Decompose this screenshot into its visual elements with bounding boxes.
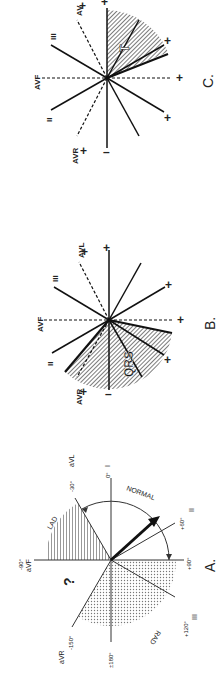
label-iii: III [51,275,60,282]
label-avl: AV [75,5,84,16]
indeterminate-label: ? [61,577,77,586]
label-plus90: +90° [186,557,192,570]
axis-plus60 [111,523,175,560]
lead-iii-line [51,45,107,78]
plus-mark: + [176,71,183,85]
plus-mark: + [177,313,184,327]
rad-region [78,560,176,626]
label-minus150: -150° [68,635,74,650]
label-plus120: +120° [183,620,189,637]
caption-c: C. [200,74,216,88]
t-label: T [118,44,132,52]
label-avl: AVL [77,242,86,258]
label-iii: III [49,33,58,40]
plus-mark: + [164,34,171,48]
label-minus30: -30° [69,480,75,492]
label-ii: II [45,118,54,122]
panel-b: + + + + + + – AVL III AVF II AVR QRS B. [36,241,218,405]
lead-avf: aVF [25,559,32,572]
label-avf: AVF [36,316,45,332]
lead-iii: III [191,614,198,620]
label-0deg: 0° [105,472,111,478]
lad-region [46,503,111,560]
plus-mark: + [101,0,108,9]
plus-mark: + [164,353,171,367]
label-minus90: -90° [18,558,24,570]
plus-mark: + [103,241,110,255]
t-region [107,10,168,78]
normal-label: NORMAL [126,484,157,501]
panel-a: 0° I -30° aVL -90° aVF -150° aVR ±180° +… [18,454,218,668]
label-avr: AVR [71,147,80,164]
plus-mark: + [165,278,172,292]
qrs-label: QRS [122,351,136,377]
plus-mark: + [164,111,171,125]
label-180: ±180° [108,652,114,668]
label-avf: AVF [33,74,42,90]
lead-spoke [109,263,141,320]
mean-axis-arrow [111,522,153,560]
hexaxial-figure: 0° I -30° aVL -90° aVF -150° aVR ±180° +… [0,0,219,684]
label-plus60: +60° [179,517,185,530]
lead-avl: aVL [68,454,75,467]
plus-mark: + [80,144,87,158]
lead-avr: aVR [58,650,65,664]
arc-arrow-end-icon [166,554,172,560]
minus-mark: – [105,387,112,401]
label-avr: AVR [75,388,84,405]
rad-label: RAD [149,630,162,646]
caption-b: B. [202,317,218,330]
label-ii: II [46,362,55,366]
lead-i: I [104,465,111,467]
caption-a: A. [202,559,218,572]
lead-ii-line [51,78,107,110]
lead-ii-pos-line [109,287,165,320]
lead-ii: II [188,508,195,512]
lead-iii-line [54,287,109,320]
minus-mark: – [103,145,110,159]
panel-c: + + + + + + – AV III AVF II AVR T C. [33,0,216,164]
